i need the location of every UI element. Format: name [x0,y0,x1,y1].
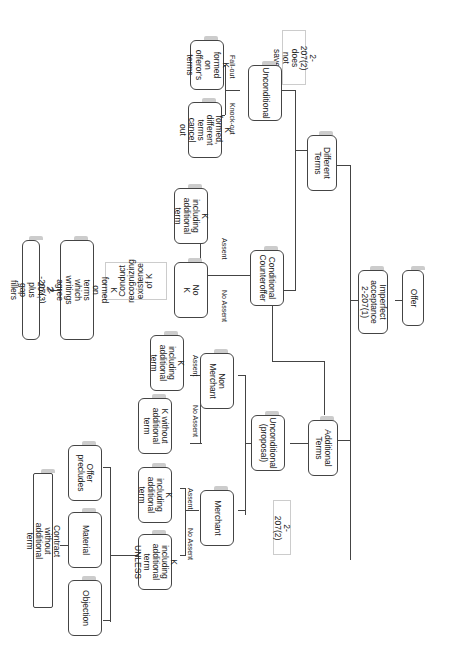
node-material: Material [68,512,102,568]
label-no-assent: No Assent [187,528,194,560]
node-k-unless: K including additional term UNLESS [138,534,172,590]
node-different-terms: Different Terms [307,135,337,191]
node-unconditional-proposal: Unconditional (proposal) [251,415,285,471]
connector [225,90,240,91]
node-imperfect-acceptance: Imperfect acceptance 2-207(1) [358,270,388,334]
note-does-not-save: 2-207(2) does not save [282,30,306,85]
node-conditional-counteroffer: Conditional Counteroffer [250,250,284,306]
connector [110,467,111,622]
connector [350,165,351,560]
node-k-including-m: K including additional term [138,467,172,523]
label-assent: Assent [221,238,228,259]
node-unconditional: Unconditional [248,65,282,121]
connector [272,361,325,362]
label-no-assent: No Assent [221,290,228,322]
node-additional-terms: Additional Terms [308,420,338,476]
connector [180,555,186,556]
node-k-including-nm: K including additional term [150,335,184,391]
label-assent: Assent [192,355,199,376]
connector [337,440,351,441]
node-k-knockout: K formed, different terms cancel out [188,102,222,158]
node-non-merchant: Non Merchant [200,353,234,409]
connector [180,488,186,489]
node-offer-precludes: Offer precludes [68,445,102,501]
connector [282,90,296,91]
connector [337,165,351,166]
connector [238,510,246,511]
connector [272,305,273,362]
node-k-writings-agree: K formed on terms which writings agree 2… [60,240,94,340]
node-k-offerors-terms: K formed on offeror's terms [190,40,224,90]
connector [185,510,199,511]
label-assent: Assent [187,488,194,509]
node-no-k: No K [174,262,208,318]
connector [103,467,111,468]
node-k-without: K without additional term [138,398,172,454]
node-contract-without: Contract without additional term [33,473,53,608]
connector [245,375,246,515]
node-merchant: Merchant [200,490,234,546]
note-2-207-2: 2-207(2) [273,500,291,555]
node-gap-fillers: 2-204, plus gap fillers [22,240,40,340]
connector [103,620,111,621]
connector [190,443,202,444]
connector [238,375,246,376]
node-objection: Objection [68,580,102,636]
connector [295,90,296,290]
connector [324,361,325,415]
node-offer: Offer [402,270,424,326]
label-no-assent: No Assent [192,405,199,437]
node-k-including-additional: K including additional term [174,188,208,244]
